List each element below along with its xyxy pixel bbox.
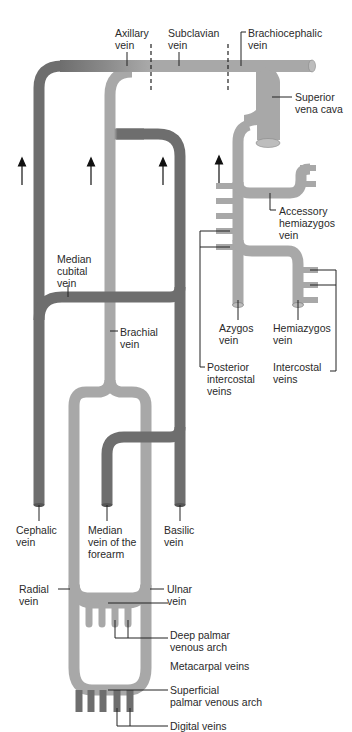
flow-arrows [19,156,223,185]
hemiazygos-vein [238,240,298,305]
label-median-cubital-vein: Median cubital vein [57,253,91,289]
label-deep-palmar-venous-arch: Deep palmar venous arch [170,629,230,653]
label-brachial-vein: Brachial vein [120,326,158,350]
azygos-vein [238,125,249,305]
label-hemiazygos-vein: Hemiazygos vein [273,322,331,346]
label-metacarpal-veins: Metacarpal veins [170,660,249,672]
posterior-intercostal-veins [216,186,233,247]
cephalic-flow-arrow-icon [19,158,26,185]
label-posterior-intercostal-veins: Posterior intercostal veins [207,361,255,397]
label-radial-vein: Radial vein [19,583,49,607]
label-accessory-hemiazygos-vein: Accessory hemiazygos vein [279,205,335,241]
axillary-subclavian-bar [60,60,312,72]
label-cephalic-vein: Cephalic vein [16,524,57,548]
label-digital-veins: Digital veins [170,720,227,732]
label-subclavian-vein: Subclavian vein [168,27,219,51]
label-median-vein-of-forearm: Median vein of the forearm [88,524,136,560]
brachiocephalic-end [309,60,316,72]
label-intercostal-veins: Intercostal veins [273,361,321,385]
label-ulnar-vein: Ulnar vein [167,583,192,607]
label-axillary-vein: Axillary vein [115,27,149,51]
superior-vena-cava-opening [256,139,280,148]
basilic-flow-arrow-icon [160,158,167,185]
label-basilic-vein: Basilic vein [164,524,194,548]
deep-veins [74,72,146,690]
label-brachiocephalic-vein: Brachiocephalic vein [248,27,322,51]
label-superficial-palmar-venous-arch: Superficial palmar venous arch [170,684,262,708]
label-superior-vena-cava: Superior vena cava [295,91,343,115]
brachial-flow-arrow-icon [88,158,95,185]
label-azygos-vein: Azygos vein [219,322,253,346]
accessory-hemiazygos-vein [238,169,310,193]
azygos-flow-arrow-icon [216,156,223,183]
